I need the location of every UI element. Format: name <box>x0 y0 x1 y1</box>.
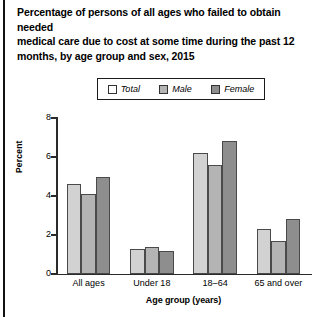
x-group-label-under-18: Under 18 <box>120 278 183 288</box>
y-tick-label-8: 8 <box>31 112 51 122</box>
bar-female-65-and-over <box>286 219 301 274</box>
bar-female-all-ages <box>96 177 111 275</box>
legend-swatch-total <box>108 85 117 94</box>
legend-swatch-female <box>211 85 220 94</box>
x-group-label-18-64: 18–64 <box>184 278 247 288</box>
x-axis-title: Age group (years) <box>57 295 310 305</box>
legend-label-total: Total <box>121 84 140 94</box>
bar-total-18-64 <box>193 153 208 274</box>
bar-total-under-18 <box>130 249 145 274</box>
bar-male-all-ages <box>81 194 96 274</box>
legend-label-female: Female <box>224 84 254 94</box>
y-tick-label-4: 4 <box>31 190 51 200</box>
legend-item-female: Female <box>211 84 254 94</box>
legend-item-male: Male <box>159 84 192 94</box>
x-group-label-all-ages: All ages <box>57 278 120 288</box>
y-tick-label-2: 2 <box>31 229 51 239</box>
bar-female-under-18 <box>159 251 174 274</box>
bar-male-65-and-over <box>271 241 286 274</box>
bar-total-all-ages <box>67 184 82 274</box>
legend-label-male: Male <box>172 84 192 94</box>
bar-male-18-64 <box>208 165 223 274</box>
plot-area <box>57 118 310 274</box>
legend-item-total: Total <box>108 84 140 94</box>
chart-title: Percentage of persons of all ages who fa… <box>17 5 317 63</box>
legend-swatch-male <box>159 85 168 94</box>
bar-total-65-and-over <box>257 229 272 274</box>
y-tick-label-6: 6 <box>31 151 51 161</box>
x-group-label-65-and-over: 65 and over <box>247 278 310 288</box>
y-axis-title: Percent <box>14 140 24 173</box>
page-left-rule <box>3 0 5 317</box>
chart-figure: Percentage of persons of all ages who fa… <box>0 0 324 317</box>
bar-female-18-64 <box>222 141 237 274</box>
y-tick-label-0: 0 <box>31 268 51 278</box>
chart-legend: Total Male Female <box>97 78 265 100</box>
bar-male-under-18 <box>145 247 160 274</box>
